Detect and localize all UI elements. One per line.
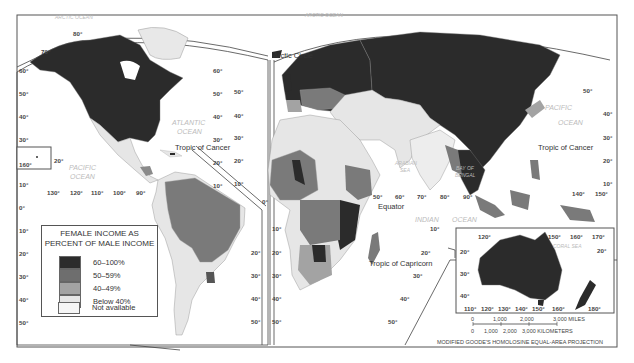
lat-label: 10° <box>19 227 28 234</box>
lat-label: 50° <box>251 318 260 325</box>
ocean-label-arctic-right: ARCTIC OCEAN <box>305 12 343 18</box>
lon-label: 50° <box>373 193 382 200</box>
lon-label: 130° <box>47 189 60 196</box>
ocean-label-pacific-right-1: PACIFIC <box>545 103 572 112</box>
scale-km-1000: 1,000 <box>484 328 498 334</box>
lat-label: 40° <box>603 110 612 117</box>
legend-item-60-100: 60–100% <box>59 256 154 269</box>
lon-label: 90° <box>463 193 472 200</box>
scale-km-2000: 2,000 <box>503 328 517 334</box>
lat-label: 40° <box>19 296 28 303</box>
projection-label: MODIFIED GOODE'S HOMOLOSINE EQUAL-AREA P… <box>437 339 603 345</box>
lat-label: 60° <box>19 67 28 74</box>
lon-label: 60° <box>395 193 404 200</box>
lon-label: 140° <box>515 305 528 312</box>
lat-label: 30° <box>251 272 260 279</box>
swatch-not-available <box>58 302 80 314</box>
lon-label: 150° <box>595 190 608 197</box>
lon-label: 80° <box>73 30 82 37</box>
lat-label: 50° <box>19 90 28 97</box>
lat-label: 40° <box>272 295 281 302</box>
ocean-label-bay-of-bengal-1: BAY OF <box>456 165 474 171</box>
hawaii-lon-label: 160° <box>19 161 32 168</box>
lat-label: 30° <box>19 136 28 143</box>
ocean-label-arabian-sea-2: SEA <box>400 167 410 173</box>
lat-label: 50° <box>213 90 222 97</box>
ocean-label-coral-sea: CORAL SEA <box>553 243 582 249</box>
lon-label: 80° <box>440 193 449 200</box>
lat-label: 50° <box>19 319 28 326</box>
legend-label-not-available: Not available <box>92 303 135 312</box>
lon-label: 160° <box>552 305 565 312</box>
ocean-label-atlantic-2: OCEAN <box>177 127 202 136</box>
lon-label: 130° <box>498 305 511 312</box>
ocean-label-arabian-sea-1: ARABIAN <box>395 160 417 166</box>
lat-label: 30° <box>272 272 281 279</box>
scale-miles-0: 0 <box>471 316 474 322</box>
lon-label: 120° <box>478 233 491 240</box>
label-tropic-of-cancer-right: Tropic of Cancer <box>538 143 593 152</box>
lat-label: 10° <box>234 180 243 187</box>
legend-item-50-59: 50–59% <box>59 269 154 282</box>
lon-label: 100° <box>113 189 126 196</box>
lat-label: 40° <box>213 113 222 120</box>
lat-label: 20° <box>251 249 260 256</box>
ocean-label-indian-2: OCEAN <box>452 215 477 224</box>
lat-label: 20° <box>421 249 430 256</box>
lat-label: 0° <box>19 204 25 211</box>
lat-label: 20° <box>460 248 469 255</box>
ocean-label-indian-1: INDIAN <box>415 215 439 224</box>
lat-label: 20° <box>213 159 222 166</box>
swatch-50-59 <box>59 269 81 282</box>
lon-label: 120° <box>70 189 83 196</box>
lon-label: 150° <box>548 233 561 240</box>
lat-label: 40° <box>460 292 469 299</box>
lat-label: 60° <box>213 67 222 74</box>
lat-label: 50° <box>272 318 281 325</box>
ocean-label-bay-of-bengal-2: BENGAL <box>455 172 475 178</box>
lat-label: 50° <box>583 87 592 94</box>
ocean-label-pacific-left-1: PACIFIC <box>69 163 96 172</box>
label-equator: Equator <box>378 202 404 211</box>
label-arctic-circle: Arctic Circle <box>273 51 313 60</box>
lon-label: 120° <box>481 305 494 312</box>
lat-label: 30° <box>603 134 612 141</box>
lat-label: 20° <box>603 157 612 164</box>
label-tropic-of-cancer-left: Tropic of Cancer <box>175 143 230 152</box>
hawaii-lat-label: 20° <box>54 157 63 164</box>
lon-label: 70° <box>417 193 426 200</box>
swatch-60-100 <box>59 256 81 269</box>
lat-label: 40° <box>19 113 28 120</box>
lat-label: 10° <box>272 225 281 232</box>
lat-label: 20° <box>597 247 606 254</box>
lat-label: 50° <box>234 88 243 95</box>
legend-item-40-49: 40–49% <box>59 282 154 295</box>
lat-label: 10° <box>19 181 28 188</box>
scale-miles-3000: 3,000 MILES <box>553 316 585 322</box>
lat-label: 10° <box>213 182 222 189</box>
lat-label: 30° <box>413 272 422 279</box>
lon-label: 140° <box>572 190 585 197</box>
ocean-label-arctic-left: ARCTIC OCEAN <box>55 14 93 20</box>
lat-label: 40° <box>234 112 243 119</box>
ocean-label-pacific-left-2: OCEAN <box>70 172 95 181</box>
lat-label: 20° <box>19 250 28 257</box>
swatch-40-49 <box>59 282 81 295</box>
lat-label: 10° <box>430 225 439 232</box>
ocean-label-pacific-right-2: OCEAN <box>558 118 583 127</box>
lat-label: 30° <box>213 136 222 143</box>
lat-label: 10° <box>603 180 612 187</box>
lat-label: 30° <box>19 273 28 280</box>
scale-km-3000: 3,000 KILOMETERS <box>522 328 573 334</box>
lat-label: 20° <box>272 249 281 256</box>
lon-label: 110° <box>91 189 103 196</box>
lon-label: 110° <box>464 305 476 312</box>
legend-title: FEMALE INCOME AS PERCENT OF MALE INCOME <box>42 229 157 249</box>
label-tropic-of-capricorn: Tropic of Capricorn <box>369 259 433 268</box>
lat-label: 0° <box>262 198 268 205</box>
ocean-label-atlantic-1: ATLANTIC <box>172 118 205 127</box>
lat-label: 30° <box>460 270 469 277</box>
scale-miles-1000: 1,000 <box>493 316 507 322</box>
lat-label: 40° <box>400 295 409 302</box>
lon-label: 170° <box>592 233 605 240</box>
